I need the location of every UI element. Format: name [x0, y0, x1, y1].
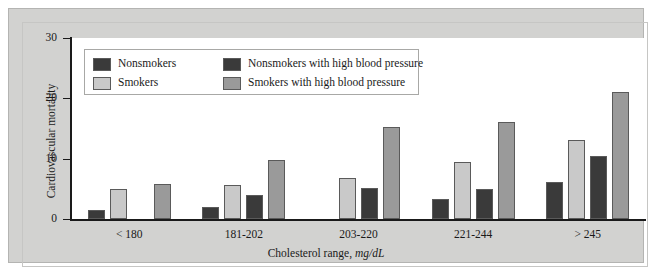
- bar: [224, 185, 241, 219]
- x-axis-tick-label: > 245: [530, 228, 645, 240]
- x-axis-line: [70, 219, 646, 221]
- bar: [110, 189, 127, 219]
- legend-item-nonsmokers: Nonsmokers: [93, 55, 176, 73]
- x-axis-tick-label: < 180: [72, 228, 187, 240]
- y-axis-tick-label: 0: [17, 213, 57, 225]
- x-axis-title: Cholesterol range, mg/dL: [9, 247, 643, 259]
- legend-label-smokers-hbp: Smokers with high blood pressure: [248, 77, 405, 89]
- bar: [154, 184, 171, 219]
- bar: [202, 207, 219, 219]
- bar: [476, 189, 493, 219]
- y-axis-tick-label: 20: [17, 92, 57, 104]
- chart-legend: Nonsmokers Nonsmokers with high blood pr…: [84, 49, 419, 95]
- bar: [88, 210, 105, 219]
- x-axis-tick-label: 203-220: [301, 228, 416, 240]
- bar: [432, 199, 449, 220]
- legend-row-2: Smokers Smokers with high blood pressure: [93, 74, 414, 92]
- bar: [546, 182, 563, 219]
- bar: [383, 127, 400, 219]
- legend-label-smokers: Smokers: [118, 77, 158, 89]
- bar-group: [432, 38, 515, 219]
- y-axis-tick: [63, 159, 70, 160]
- bar: [498, 122, 515, 219]
- x-axis-title-units: mg/dL: [355, 247, 384, 259]
- bar: [339, 178, 356, 219]
- legend-swatch-nonsmokers-hbp: [223, 58, 241, 71]
- chart-figure: Cardiovascular mortality 0102030 < 18018…: [0, 0, 654, 277]
- bar: [361, 188, 378, 219]
- legend-item-nonsmokers-hbp: Nonsmokers with high blood pressure: [223, 55, 423, 73]
- y-axis-tick: [63, 98, 70, 99]
- legend-item-smokers: Smokers: [93, 74, 158, 92]
- y-axis-title-container: Cardiovascular mortality: [31, 39, 51, 219]
- bar: [590, 156, 607, 219]
- legend-row-1: Nonsmokers Nonsmokers with high blood pr…: [93, 55, 414, 73]
- y-axis-title: Cardiovascular mortality: [45, 51, 57, 231]
- bar: [612, 92, 629, 219]
- y-axis-tick: [63, 38, 70, 39]
- chart-panel: Cardiovascular mortality 0102030 < 18018…: [8, 8, 644, 263]
- legend-label-nonsmokers-hbp: Nonsmokers with high blood pressure: [248, 58, 423, 70]
- x-axis-title-plain: Cholesterol range,: [268, 247, 355, 259]
- legend-swatch-nonsmokers: [93, 58, 111, 71]
- bar: [454, 162, 471, 219]
- legend-item-smokers-hbp: Smokers with high blood pressure: [223, 74, 405, 92]
- y-axis-tick-label: 30: [17, 32, 57, 44]
- legend-swatch-smokers: [93, 77, 111, 90]
- legend-label-nonsmokers: Nonsmokers: [118, 58, 176, 70]
- bar: [268, 160, 285, 219]
- y-axis-tick-label: 10: [17, 153, 57, 165]
- y-axis-tick: [63, 219, 70, 220]
- bar: [568, 140, 585, 219]
- legend-swatch-smokers-hbp: [223, 77, 241, 90]
- x-axis-tick-label: 181-202: [187, 228, 302, 240]
- bar: [246, 195, 263, 219]
- x-axis-tick-label: 221-244: [416, 228, 531, 240]
- bar-group: [546, 38, 629, 219]
